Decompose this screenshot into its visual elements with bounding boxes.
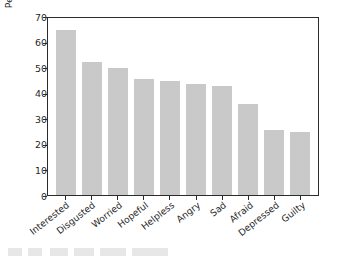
bar-slot	[157, 18, 183, 195]
bar	[160, 81, 181, 195]
bar	[108, 68, 129, 195]
plot-area	[47, 17, 319, 196]
bar-slot	[183, 18, 209, 195]
bar-slot	[287, 18, 313, 195]
bar	[212, 86, 233, 195]
bar	[186, 84, 207, 195]
bar	[134, 79, 155, 195]
bar-slot	[79, 18, 105, 195]
bar-slot	[105, 18, 131, 195]
bar-slot	[53, 18, 79, 195]
bar	[264, 130, 285, 195]
bar	[82, 62, 103, 195]
bar-chart-figure: Percent of respondents 010203040506070 I…	[0, 0, 351, 259]
bar-slot	[235, 18, 261, 195]
x-axis-label-group: InterestedDisgustedWorriedHopefulHelples…	[47, 200, 319, 252]
bar-slot	[261, 18, 287, 195]
bar	[56, 30, 77, 195]
bar	[238, 104, 259, 195]
bar-slot	[131, 18, 157, 195]
bar	[290, 132, 311, 195]
bar-slot	[209, 18, 235, 195]
y-axis-title: Percent of respondents	[2, 0, 16, 45]
page-footer-artifact	[8, 248, 168, 256]
bar-series	[48, 18, 318, 195]
